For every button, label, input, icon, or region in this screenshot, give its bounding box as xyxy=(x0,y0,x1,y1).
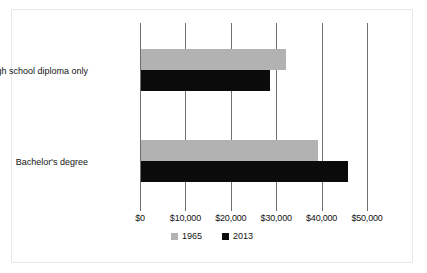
bar-bachelors-1965 xyxy=(141,140,318,161)
xtick-0 xyxy=(140,206,141,211)
legend-label-1965: 1965 xyxy=(182,231,202,241)
gridline-5 xyxy=(367,23,368,206)
xtick-3 xyxy=(276,206,277,211)
xtick-label-5: $50,000 xyxy=(351,213,382,223)
xtick-label-3: $30,000 xyxy=(261,213,292,223)
bar-bachelors-2013 xyxy=(141,161,348,182)
xtick-1 xyxy=(185,206,186,211)
xtick-2 xyxy=(231,206,232,211)
chart-legend: 1965 2013 xyxy=(12,231,412,241)
category-label-highschool: High school diploma only xyxy=(0,66,88,76)
legend-label-2013: 2013 xyxy=(233,231,253,241)
legend-swatch-1965 xyxy=(171,233,178,240)
plot-area: $0 $10,000 $20,000 $30,000 $40,000 $50,0… xyxy=(140,23,367,206)
legend-item-2013: 2013 xyxy=(222,231,253,241)
xtick-5 xyxy=(367,206,368,211)
legend-swatch-2013 xyxy=(222,233,229,240)
bar-highschool-1965 xyxy=(141,49,286,70)
xtick-label-0: $0 xyxy=(135,213,145,223)
xtick-label-1: $10,000 xyxy=(170,213,201,223)
bar-highschool-2013 xyxy=(141,70,270,91)
chart-figure: $0 $10,000 $20,000 $30,000 $40,000 $50,0… xyxy=(11,9,413,263)
xtick-4 xyxy=(322,206,323,211)
xtick-label-4: $40,000 xyxy=(306,213,337,223)
category-label-bachelors: Bachelor's degree xyxy=(16,157,88,167)
xtick-label-2: $20,000 xyxy=(215,213,246,223)
legend-item-1965: 1965 xyxy=(171,231,202,241)
